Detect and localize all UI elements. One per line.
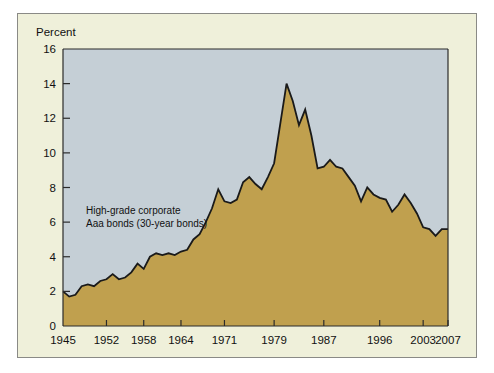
- y-tick-label: 2: [50, 285, 56, 297]
- x-tick-label: 1971: [212, 334, 238, 346]
- x-tick-label: 2003: [410, 334, 436, 346]
- x-tick-label: 1952: [94, 334, 120, 346]
- figure-root: 0246810121416 19451952195819641971197919…: [0, 0, 494, 373]
- y-tick-label: 8: [50, 182, 56, 194]
- y-axis-title: Percent: [36, 26, 76, 38]
- x-tick-label: 1945: [50, 334, 76, 346]
- y-tick-label: 0: [50, 320, 56, 332]
- series-annotation-line2: Aaa bonds (30-year bonds): [86, 218, 207, 229]
- x-tick-label: 1987: [311, 334, 337, 346]
- y-tick-label: 12: [43, 112, 56, 124]
- y-tick-label: 6: [50, 216, 56, 228]
- x-tick-label: 1958: [131, 334, 157, 346]
- x-tick-label: 1996: [367, 334, 393, 346]
- x-tick-label: 2007: [435, 334, 461, 346]
- chart-panel: 0246810121416 19451952195819641971197919…: [17, 13, 477, 358]
- y-tick-label: 16: [43, 43, 56, 55]
- series-annotation-line1: High-grade corporate: [86, 205, 181, 216]
- y-tick-label: 4: [50, 251, 57, 263]
- x-tick-label: 1964: [168, 334, 194, 346]
- y-tick-label: 14: [43, 78, 56, 90]
- y-tick-label: 10: [43, 147, 56, 159]
- bond-yield-area-chart: 0246810121416 19451952195819641971197919…: [18, 14, 476, 357]
- x-tick-label: 1979: [261, 334, 287, 346]
